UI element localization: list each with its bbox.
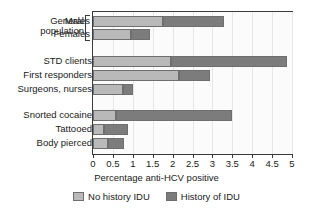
bar-segment bbox=[93, 56, 171, 67]
bar-segment bbox=[116, 110, 233, 121]
legend-swatch-history-of-idu bbox=[166, 192, 177, 201]
bar-segment bbox=[123, 84, 133, 95]
gridline bbox=[193, 12, 194, 154]
legend-label-history-of-idu: History of IDU bbox=[181, 191, 240, 202]
bar-segment bbox=[104, 124, 127, 135]
bar-segment bbox=[171, 56, 287, 67]
gridline bbox=[153, 12, 154, 154]
bar-segment bbox=[131, 29, 150, 40]
x-tick-label: 2 bbox=[170, 159, 175, 169]
bar-segment bbox=[93, 84, 123, 95]
category-label-body-pierced: Body pierced bbox=[37, 138, 92, 148]
category-label-snorted-cocaine: Snorted cocaine bbox=[23, 110, 92, 120]
legend-item-history-of-idu: History of IDU bbox=[166, 191, 240, 202]
bar-segment bbox=[93, 138, 108, 149]
plot-area bbox=[92, 11, 293, 155]
gridline bbox=[173, 12, 174, 154]
x-tick-label: 1.5 bbox=[146, 159, 159, 169]
x-tick-label: 0.5 bbox=[106, 159, 119, 169]
bar-segment bbox=[93, 29, 131, 40]
x-axis-title: Percentage anti-HCV positive bbox=[0, 172, 313, 183]
category-label-tattooed: Tattooed bbox=[56, 124, 92, 134]
gridline bbox=[272, 12, 273, 154]
category-label-females: Females bbox=[54, 29, 90, 39]
bar-segment bbox=[163, 16, 225, 27]
x-tick-label: 3 bbox=[210, 159, 215, 169]
bar-segment bbox=[93, 70, 179, 81]
chart-legend: No history IDU History of IDU bbox=[0, 191, 313, 202]
x-tick-label: 2.5 bbox=[186, 159, 199, 169]
x-tick-label: 5 bbox=[289, 159, 294, 169]
x-tick-label: 0 bbox=[90, 159, 95, 169]
gridline bbox=[292, 12, 293, 154]
gridline bbox=[232, 12, 233, 154]
gridline bbox=[252, 12, 253, 154]
hcv-prevalence-bar-chart: Generalpopulation MalesFemalesSTD client… bbox=[0, 0, 313, 211]
x-tick-label: 3.5 bbox=[226, 159, 239, 169]
x-tick-label: 4 bbox=[250, 159, 255, 169]
bar-segment bbox=[93, 110, 116, 121]
category-label-surgeons-nurses: Surgeons, nurses bbox=[18, 84, 92, 94]
x-tick-label: 1 bbox=[130, 159, 135, 169]
bar-segment bbox=[179, 70, 210, 81]
x-axis: 00.511.522.533.544.55 bbox=[92, 155, 293, 173]
x-tick-label: 4.5 bbox=[265, 159, 278, 169]
legend-item-no-history-idu: No history IDU bbox=[73, 191, 150, 202]
category-label-first-responders: First responders bbox=[23, 70, 92, 80]
category-label-std-clients: STD clients bbox=[43, 56, 92, 66]
legend-swatch-no-history-idu bbox=[73, 192, 84, 201]
category-label-males: Males bbox=[65, 16, 90, 26]
bar-segment bbox=[93, 124, 104, 135]
bar-segment bbox=[93, 16, 163, 27]
legend-label-no-history-idu: No history IDU bbox=[88, 191, 150, 202]
bar-segment bbox=[108, 138, 124, 149]
gridline bbox=[212, 12, 213, 154]
